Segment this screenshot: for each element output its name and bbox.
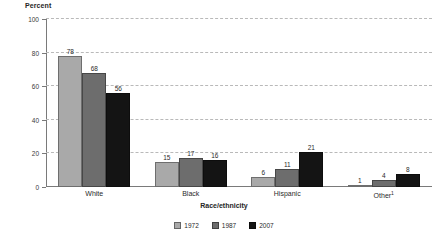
bar-slot: 8 (396, 19, 420, 187)
bar-slot: 56 (106, 19, 130, 187)
bar-group: 151716 (143, 19, 240, 187)
bar-value-label: 1 (358, 177, 362, 184)
y-axis-tick-label: 80 (32, 49, 39, 56)
bar[interactable] (82, 73, 106, 187)
bar-value-label: 56 (115, 85, 122, 92)
bar-group: 786856 (46, 19, 143, 187)
bar[interactable] (299, 152, 323, 187)
bar-slot: 11 (275, 19, 299, 187)
bar-groups: 78685615171661121148 (46, 19, 432, 187)
y-axis-tick-label: 100 (28, 16, 39, 23)
chart-legend: 197219872007 (0, 222, 448, 229)
legend-swatch (212, 222, 219, 229)
bar-value-label: 8 (406, 166, 410, 173)
x-axis-category-label: White (46, 190, 143, 199)
bar-slot: 1 (348, 19, 372, 187)
legend-swatch (249, 222, 256, 229)
x-axis-category-labels: WhiteBlackHispanicOther1 (46, 190, 432, 199)
x-axis-category-label: Hispanic (239, 190, 336, 199)
bar-value-label: 11 (284, 161, 291, 168)
y-axis-tick-label: 40 (32, 116, 39, 123)
bar-slot: 6 (251, 19, 275, 187)
bar-slot: 17 (179, 19, 203, 187)
bar-value-label: 16 (211, 152, 218, 159)
bar-value-label: 17 (187, 150, 194, 157)
bar[interactable] (203, 160, 227, 187)
bar-value-label: 21 (308, 144, 315, 151)
bar[interactable] (396, 174, 420, 187)
bar-group: 61121 (239, 19, 336, 187)
bar[interactable] (58, 56, 82, 187)
bar-slot: 16 (203, 19, 227, 187)
y-axis-tick-label: 60 (32, 83, 39, 90)
bar-value-label: 15 (163, 154, 170, 161)
bar[interactable] (251, 177, 275, 187)
bar-value-label: 4 (382, 172, 386, 179)
bar-chart: Percent 020406080100 7868561517166112114… (0, 0, 448, 243)
bar-slot: 68 (82, 19, 106, 187)
bar-slot: 4 (372, 19, 396, 187)
legend-swatch (174, 222, 181, 229)
legend-label: 2007 (259, 222, 273, 229)
bar-slot: 78 (58, 19, 82, 187)
bar-slot: 21 (299, 19, 323, 187)
x-axis-category-label: Black (143, 190, 240, 199)
plot-area: 020406080100 78685615171661121148 (46, 19, 432, 187)
bar[interactable] (372, 180, 396, 187)
y-axis-tick-label: 0 (35, 184, 39, 191)
legend-item[interactable]: 2007 (249, 222, 273, 229)
x-axis-category-label: Other1 (336, 190, 433, 199)
bar-value-label: 6 (261, 169, 265, 176)
bar[interactable] (348, 185, 372, 187)
legend-label: 1987 (222, 222, 236, 229)
footnote-marker: 1 (391, 190, 394, 196)
y-axis-tick-label: 20 (32, 150, 39, 157)
x-axis-title: Race/ethnicity (0, 202, 448, 209)
legend-item[interactable]: 1987 (212, 222, 236, 229)
bar[interactable] (275, 169, 299, 187)
bar[interactable] (155, 162, 179, 187)
bar-value-label: 78 (67, 48, 74, 55)
legend-label: 1972 (184, 222, 198, 229)
bar[interactable] (179, 158, 203, 187)
bar-value-label: 68 (91, 65, 98, 72)
bar-slot: 15 (155, 19, 179, 187)
bar[interactable] (106, 93, 130, 187)
legend-item[interactable]: 1972 (174, 222, 198, 229)
bar-group: 148 (336, 19, 433, 187)
y-axis-tick (42, 187, 46, 188)
y-axis-title: Percent (25, 2, 51, 9)
